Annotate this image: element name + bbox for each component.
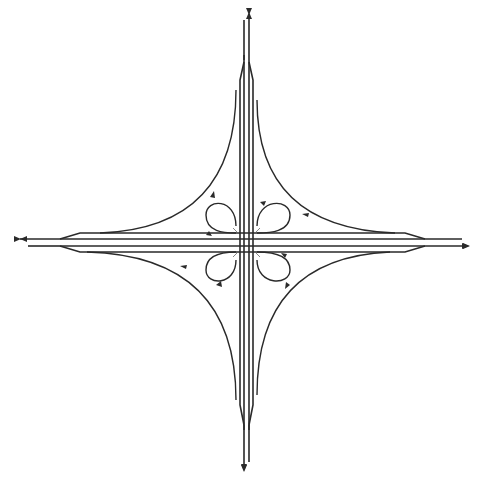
northwest-outer-ramp [100,90,236,233]
southeast-outer-ramp [257,252,390,395]
arrow-icon [302,213,309,217]
west-arrow-icon [20,236,27,242]
arrow-icon [260,201,266,206]
northeast-outer-ramp [257,100,395,233]
arrow-icon [285,282,290,289]
southwest-outer-ramp [87,252,236,400]
east-arrow-icon [463,243,470,249]
northeast-loop [257,203,290,233]
arrow-icon [180,265,187,269]
north-arrow-icon [246,12,252,19]
southwest-loop [206,252,236,281]
direction-arrows [20,12,470,472]
south-arrow-icon [241,465,247,472]
northwest-loop [206,203,236,233]
north-south-highway [240,14,253,470]
loop-ramps [206,201,290,287]
arrow-icon [210,191,215,198]
outer-ramps [87,90,395,400]
cloverleaf-interchange-diagram [0,0,482,482]
arrow-icon [216,281,222,287]
